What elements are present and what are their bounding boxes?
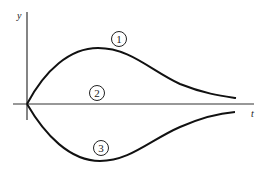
curve-3: [27, 104, 235, 161]
svg-text:2: 2: [94, 87, 100, 99]
curve-1: [27, 48, 236, 104]
svg-text:1: 1: [116, 33, 122, 45]
y-axis-label: y: [16, 10, 22, 21]
curve-1-label: 1: [112, 32, 127, 47]
x-axis-label: t: [251, 108, 254, 119]
diagram: y t 1 2 3: [0, 0, 271, 172]
curve-2-label: 2: [90, 86, 105, 101]
svg-text:3: 3: [98, 142, 104, 154]
curve-3-label: 3: [94, 141, 109, 156]
